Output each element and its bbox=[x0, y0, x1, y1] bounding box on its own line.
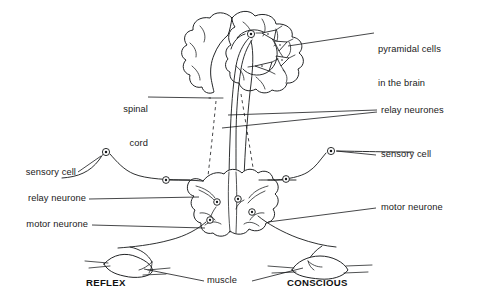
spinal-cord-dashed-outline bbox=[208, 94, 254, 176]
muscle-conscious bbox=[268, 256, 372, 279]
cord-cell-right bbox=[249, 209, 256, 216]
relay-cell-body-right-cord bbox=[283, 176, 290, 183]
label-muscle: muscle bbox=[207, 275, 237, 286]
cord-cell-lower-left bbox=[207, 217, 214, 224]
muscle-reflex bbox=[85, 254, 170, 277]
label-sensory-cell-right: sensory cell bbox=[381, 149, 431, 160]
leader-motor-neurone-right bbox=[268, 208, 376, 222]
label-motor-neurone-right: motor neurone bbox=[381, 202, 443, 213]
leader-spinal-cord bbox=[148, 97, 211, 98]
label-pyramidal-cells-line1: pyramidal cells bbox=[378, 44, 441, 55]
label-spinal-cord-line2: cord bbox=[110, 138, 148, 149]
cord-cell-upper-left bbox=[214, 199, 221, 206]
label-spinal-cord-line1: spinal bbox=[110, 104, 148, 115]
label-reflex: REFLEX bbox=[86, 277, 126, 288]
pyramidal-cell-body-brain bbox=[247, 30, 254, 37]
brain-outline bbox=[182, 11, 304, 93]
sensory-cell-body-right bbox=[327, 147, 334, 154]
leader-relay-neurone-left bbox=[89, 197, 199, 199]
leader-pyramidal-cells bbox=[288, 33, 374, 46]
relay-cell-body-left-cord bbox=[163, 177, 170, 184]
motor-neurone-right bbox=[258, 216, 336, 261]
leader-muscle-left bbox=[144, 269, 204, 281]
sensory-cell-body-left bbox=[102, 148, 109, 155]
label-spinal-cord: spinal cord bbox=[110, 81, 148, 172]
label-relay-neurones: relay neurones bbox=[381, 105, 444, 116]
label-pyramidal-cells-line2: in the brain bbox=[378, 78, 441, 89]
nervous-pathway-diagram: pyramidal cells in the brain spinal cord… bbox=[0, 0, 477, 304]
label-conscious: CONSCIOUS bbox=[287, 277, 348, 288]
cord-cell-upper-right bbox=[235, 196, 242, 203]
label-sensory-cell-left: sensory cell bbox=[14, 167, 76, 178]
leader-motor-neurone-left bbox=[92, 225, 205, 228]
label-pyramidal-cells: pyramidal cells in the brain bbox=[378, 21, 441, 112]
label-relay-neurone-left: relay neurone bbox=[18, 193, 86, 204]
label-motor-neurone-left: motor neurone bbox=[18, 219, 88, 230]
